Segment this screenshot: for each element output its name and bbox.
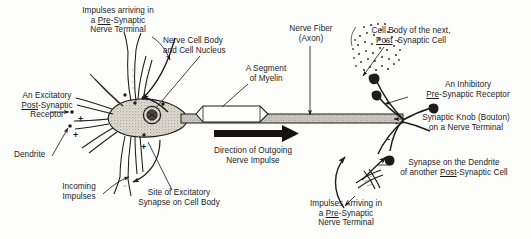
label-incoming-impulses: Incoming Impulses [53, 182, 105, 201]
plus-sign-soma-bottom: + [141, 142, 146, 152]
label-direction-impulse: Direction of Outgoing Nerve Impulse [190, 146, 316, 165]
label-dendrite: Dendrite [14, 150, 45, 160]
synaptic-knob-upper2 [372, 90, 382, 100]
label-nerve-fiber: Nerve Fiber (Axon) [276, 24, 346, 43]
leader-dendrite [52, 128, 68, 156]
label-cell-body-next: Cell Body of the next, Post -Synaptic Ce… [348, 26, 474, 45]
label-synapse-dendrite: Synapse on the Dendrite of another Post-… [379, 158, 529, 177]
label-segment-myelin: A Segment of Myelin [228, 64, 304, 83]
myelin-segment [196, 106, 268, 122]
dendrite-receptor-dot [68, 124, 72, 128]
impulse-direction-arrow [214, 125, 299, 142]
axon-group [181, 106, 403, 123]
synaptic-knob-upper [369, 73, 380, 84]
label-synaptic-knob: Synaptic Knob (Bouton) on a Nerve Termin… [404, 113, 528, 132]
soma-group [108, 99, 187, 137]
label-impulses-pre-left: Impulses arriving in a Pre-Synaptic Nerv… [52, 6, 184, 35]
plus-sign-lower-left: + [73, 130, 78, 140]
label-nerve-cell-body: Nerve Cell Body and Cell Nucleus [163, 36, 226, 55]
label-excitatory-receptor: An Excitatory Post-Synaptic Receptor [2, 91, 92, 120]
leader-segment-myelin [222, 84, 248, 107]
label-impulses-pre-right: Impulses Arriving in a Pre-Synaptic Nerv… [282, 199, 410, 228]
leader-nerve-cell-body [156, 56, 200, 108]
label-inhibitory-receptor: An Inhibitory Pre-Synaptic Receptor [409, 80, 527, 99]
leader-site-excitatory-synapse [148, 142, 172, 190]
label-site-excitatory-synapse: Site of Excitatory Synapse on Cell Body [119, 188, 239, 207]
incoming-impulse-arc-left [133, 140, 160, 182]
